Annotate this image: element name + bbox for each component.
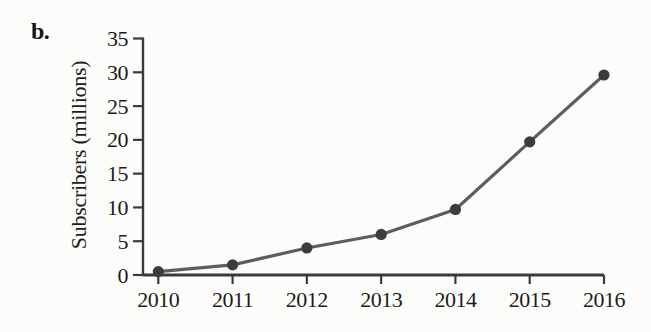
x-tick-label: 2014	[434, 287, 477, 312]
y-tick-label: 0	[118, 263, 129, 288]
x-tick-label: 2013	[360, 287, 403, 312]
y-tick-label: 5	[118, 229, 129, 254]
x-tick-label: 2016	[583, 287, 626, 312]
y-tick-label: 30	[107, 60, 129, 85]
subscribers-line-chart: 0510152025303520102011201220132014201520…	[0, 0, 651, 332]
figure-panel-b: b. 0510152025303520102011201220132014201…	[0, 0, 651, 332]
data-point	[598, 69, 609, 80]
y-tick-label: 10	[107, 195, 129, 220]
data-point	[524, 136, 535, 147]
y-tick-label: 15	[107, 161, 129, 186]
data-point	[153, 266, 164, 277]
data-point	[450, 204, 461, 215]
y-axis-title: Subscribers (millions)	[66, 61, 91, 249]
data-point	[376, 229, 387, 240]
data-point	[301, 242, 312, 253]
data-line	[158, 75, 604, 272]
x-tick-label: 2010	[137, 287, 180, 312]
data-point	[227, 259, 238, 270]
x-tick-label: 2015	[509, 287, 552, 312]
x-tick-label: 2011	[212, 287, 253, 312]
y-tick-label: 25	[107, 94, 129, 119]
y-tick-label: 20	[107, 127, 129, 152]
x-tick-label: 2012	[286, 287, 328, 312]
y-tick-label: 35	[107, 26, 129, 51]
